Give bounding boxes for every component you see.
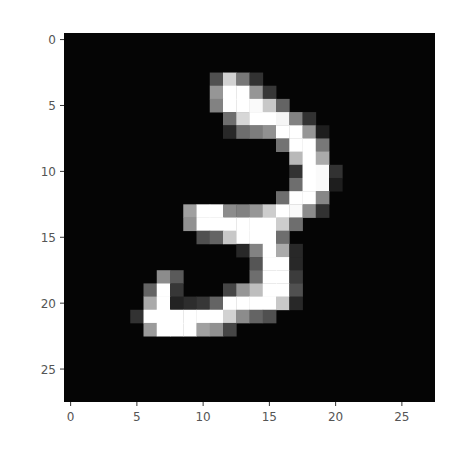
pixel-cell <box>236 73 250 87</box>
pixel-cell <box>289 297 303 311</box>
y-tick-label: 20 <box>41 297 56 311</box>
pixel-cell <box>276 191 290 205</box>
pixel-cell <box>276 231 290 245</box>
pixel-cell <box>170 270 184 284</box>
pixel-cell <box>289 165 303 179</box>
pixel-cell <box>236 297 250 311</box>
pixel-cell <box>144 323 158 337</box>
pixel-cell <box>289 191 303 205</box>
pixel-cell <box>210 204 224 218</box>
pixel-cell <box>170 323 184 337</box>
pixel-cell <box>250 231 264 245</box>
pixel-cell <box>236 86 250 100</box>
pixel-cell <box>289 270 303 284</box>
pixel-cell <box>316 138 330 152</box>
pixel-cell <box>276 283 290 297</box>
pixel-cell <box>276 244 290 258</box>
pixel-cell <box>263 125 277 139</box>
pixel-cell <box>263 99 277 113</box>
pixel-cell <box>210 218 224 232</box>
x-axis: 0510152025 <box>67 402 410 424</box>
pixel-cell <box>157 270 171 284</box>
y-tick-label: 5 <box>48 99 56 113</box>
pixel-cell <box>236 112 250 126</box>
pixel-cell <box>210 297 224 311</box>
digit-image <box>64 33 435 402</box>
pixel-cell <box>170 310 184 324</box>
pixel-cell <box>183 297 197 311</box>
pixel-cell <box>250 73 264 87</box>
pixel-cell <box>303 138 317 152</box>
pixel-cell <box>276 125 290 139</box>
pixel-cell <box>276 270 290 284</box>
y-tick-label: 10 <box>41 165 56 179</box>
pixel-cell <box>197 204 211 218</box>
pixel-cell <box>289 112 303 126</box>
pixel-cell <box>303 191 317 205</box>
pixel-cell <box>197 231 211 245</box>
pixel-cell <box>263 283 277 297</box>
pixel-cell <box>316 125 330 139</box>
pixel-cell <box>210 99 224 113</box>
pixel-cell <box>223 283 237 297</box>
x-tick-label: 25 <box>394 410 409 424</box>
pixel-cell <box>144 310 158 324</box>
pixel-cell <box>316 191 330 205</box>
pixel-cell <box>263 218 277 232</box>
pixel-cell <box>210 310 224 324</box>
pixel-cell <box>316 204 330 218</box>
pixel-cell <box>289 125 303 139</box>
pixel-cell <box>236 99 250 113</box>
pixel-cell <box>183 204 197 218</box>
pixel-cell <box>197 218 211 232</box>
pixel-cell <box>130 310 144 324</box>
pixel-cell <box>236 125 250 139</box>
pixel-cell <box>276 218 290 232</box>
pixel-cell <box>289 218 303 232</box>
pixel-cell <box>250 283 264 297</box>
x-tick-label: 15 <box>262 410 277 424</box>
pixel-cell <box>276 297 290 311</box>
pixel-cell <box>289 138 303 152</box>
pixel-cell <box>157 297 171 311</box>
x-tick-label: 0 <box>67 410 75 424</box>
pixel-cell <box>236 283 250 297</box>
pixel-cell <box>289 283 303 297</box>
pixel-cell <box>223 204 237 218</box>
pixel-cell <box>223 99 237 113</box>
pixel-cell <box>289 257 303 271</box>
pixel-cell <box>210 323 224 337</box>
pixel-cell <box>236 204 250 218</box>
pixel-cell <box>250 99 264 113</box>
pixel-cell <box>263 231 277 245</box>
y-tick-label: 15 <box>41 231 56 245</box>
pixel-cell <box>157 323 171 337</box>
pixel-cell <box>250 257 264 271</box>
pixel-cell <box>223 73 237 87</box>
pixel-cell <box>329 178 343 192</box>
pixel-cell <box>263 112 277 126</box>
pixel-cell <box>157 310 171 324</box>
y-tick-label: 25 <box>41 363 56 377</box>
pixel-cell <box>289 244 303 258</box>
pixel-cell <box>157 283 171 297</box>
pixel-cell <box>210 73 224 87</box>
pixel-cell <box>170 283 184 297</box>
pixel-cell <box>263 86 277 100</box>
pixel-cell <box>223 297 237 311</box>
pixel-cell <box>303 125 317 139</box>
pixel-cell <box>329 165 343 179</box>
pixel-cell <box>144 297 158 311</box>
pixel-cell <box>250 112 264 126</box>
pixel-cell <box>250 270 264 284</box>
pixel-cell <box>223 112 237 126</box>
pixel-cell <box>197 297 211 311</box>
pixel-cell <box>223 218 237 232</box>
pixel-cell <box>303 204 317 218</box>
pixel-cell <box>263 257 277 271</box>
pixel-cell <box>197 323 211 337</box>
x-tick-label: 10 <box>195 410 210 424</box>
pixel-cell <box>223 310 237 324</box>
pixel-cell <box>236 231 250 245</box>
y-axis: 0510152025 <box>41 33 64 376</box>
